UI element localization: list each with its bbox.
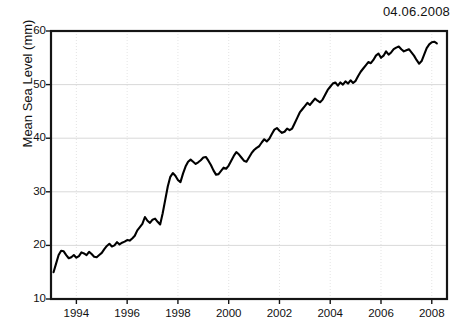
mean-sea-level-line (54, 42, 437, 272)
grid-lines (51, 31, 447, 299)
axis-frame (51, 31, 447, 299)
plot-area (0, 0, 467, 332)
sea-level-chart-figure: 04.06.2008 Mean Sea Level (mm) 102030405… (0, 0, 467, 332)
tick-marks (46, 31, 432, 304)
